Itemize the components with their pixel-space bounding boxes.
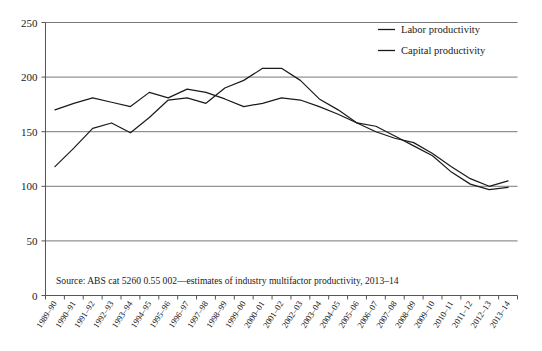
x-axis-tick-group (46, 296, 518, 300)
y-axis-tick-group (42, 23, 46, 296)
chart-legend: Labor productivityCapital productivity (378, 24, 486, 56)
source-note: Source: ABS cat 5260 0.55 002—estimates … (56, 275, 399, 286)
legend-label: Labor productivity (401, 24, 481, 35)
y-axis-tick-label: 0 (32, 290, 38, 302)
series-group (55, 68, 508, 189)
y-axis-tick-label: 200 (21, 71, 38, 83)
chart-svg: 050100150200250 1989–901990–911991–92199… (0, 0, 542, 351)
series-line-capital-productivity (55, 68, 508, 189)
y-axis-tick-label: 50 (27, 235, 39, 247)
y-axis-tick-label: 150 (21, 126, 38, 138)
x-axis-label-group: 1989–901990–911991–921992–931993–941994–… (34, 299, 512, 330)
productivity-line-chart: 050100150200250 1989–901990–911991–92199… (0, 0, 542, 351)
legend-label: Capital productivity (401, 45, 486, 56)
y-axis-label-group: 050100150200250 (21, 17, 38, 302)
y-axis-tick-label: 100 (21, 180, 38, 192)
series-line-labor-productivity (55, 89, 508, 186)
y-axis-tick-label: 250 (21, 17, 38, 29)
